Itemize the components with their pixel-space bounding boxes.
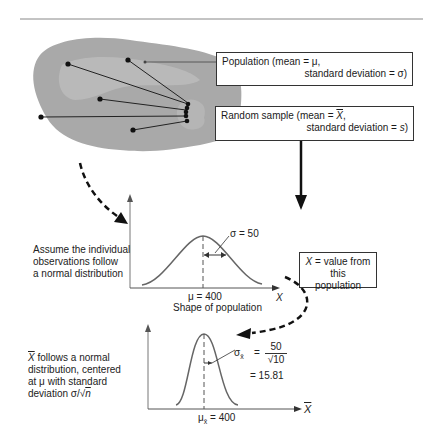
dashed-arrow-head-2 xyxy=(236,328,251,339)
sigma-fraction: 50 √10 xyxy=(265,341,287,366)
sample-box-prefix: Random sample (mean = xyxy=(221,110,336,121)
x-definition-line1: X = value from this xyxy=(305,256,371,280)
sample-box-line2: standard deviation = s) xyxy=(221,122,408,134)
population-box-line2: standard deviation = σ) xyxy=(222,68,407,80)
population-box: Population (mean = μ, standard deviation… xyxy=(216,52,413,86)
sigma-xbar-label: σx̄ xyxy=(234,347,244,363)
sampling-line1: X follows a normal xyxy=(28,352,121,364)
fraction-numerator: 50 xyxy=(265,341,287,354)
x-definition-box: X = value from this population xyxy=(299,252,377,288)
random-sample-box: Random sample (mean = X, standard deviat… xyxy=(215,106,414,141)
sampling-line2: distribution, centered xyxy=(28,364,121,376)
population-leader-dot xyxy=(144,61,147,64)
sample-box-comma: , xyxy=(343,110,346,121)
sample-box-paren: ) xyxy=(405,122,408,133)
assumption-line3: a normal distribution xyxy=(33,268,130,280)
x-bar-symbol: X xyxy=(28,352,35,363)
dashed-arrow-to-population-curve xyxy=(80,163,120,218)
sampling-line1-text: follows a normal xyxy=(35,352,110,363)
x-definition-line2: population xyxy=(305,280,371,292)
population-caption: Shape of population xyxy=(173,302,262,314)
sigma-subscript: x̄ xyxy=(240,353,244,360)
x-bar-axis-label: X xyxy=(304,403,311,415)
assumption-line1: Assume the individual xyxy=(33,244,130,256)
down-arrow-head xyxy=(295,195,307,210)
sampling-note: X follows a normal distribution, centere… xyxy=(28,352,121,400)
sampling-line3: at μ with standard xyxy=(28,376,121,388)
assumption-note: Assume the individual observations follo… xyxy=(33,244,130,280)
x-bar-symbol: X xyxy=(336,110,343,121)
sampling-curve-chart xyxy=(145,324,302,412)
sigma-result: = 15.81 xyxy=(250,370,284,382)
population-box-line1: Population (mean = μ, xyxy=(222,56,407,68)
population-curve-chart xyxy=(127,194,280,291)
sigma-label: σ = 50 xyxy=(230,228,259,240)
mu-subscript: x̄ xyxy=(204,418,208,425)
sampling-line4: deviation σ/√n xyxy=(28,388,121,400)
sample-box-line1: Random sample (mean = X, xyxy=(221,110,408,122)
mu-xbar-label: μx̄ = 400 xyxy=(198,412,235,428)
sampling-line4-text: deviation σ/√ xyxy=(28,388,85,399)
fraction-denominator: √10 xyxy=(265,354,287,366)
assumption-line2: observations follow xyxy=(33,256,130,268)
x-definition-text: = value from this xyxy=(312,256,370,279)
sigma-equals: = xyxy=(254,347,260,359)
mu-xbar-value: = 400 xyxy=(210,412,235,423)
n-symbol: n xyxy=(85,388,91,399)
sample-box-sd-prefix: standard deviation = xyxy=(307,122,400,133)
x-axis-label: X xyxy=(276,292,283,304)
